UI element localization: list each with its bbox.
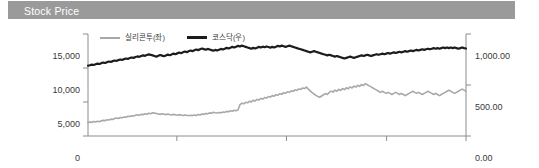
- series-line-2: [88, 46, 466, 66]
- y-axis-left-tick-1: 5,000: [57, 120, 80, 129]
- y-axis-right-tick-0: 0.00: [475, 154, 493, 163]
- y-axis-left-tick-0: 0: [75, 154, 80, 163]
- page-title: Stock Price: [24, 5, 79, 17]
- y-axis-right-tick-1: 500.00: [475, 103, 503, 112]
- y-axis-left-tick-3: 15,000: [52, 52, 80, 61]
- chart-plot-svg: [0, 22, 539, 168]
- y-axis-left-tick-2: 10,000: [52, 86, 80, 95]
- panel-header: Stock Price: [8, 1, 515, 19]
- chart-series: [88, 46, 466, 123]
- stock-price-chart: 실리콘투(좌)코스닥(우) 05,00010,00015,0000.00500.…: [0, 22, 539, 168]
- y-axis-right-tick-2: 1,000.00: [475, 52, 510, 61]
- series-line-1: [88, 84, 466, 123]
